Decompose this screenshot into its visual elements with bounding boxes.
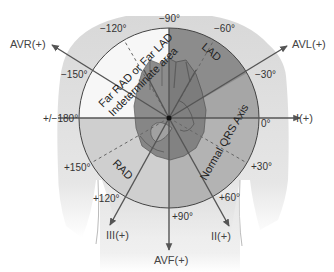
axis-diagram: Far RAD or Far LAD Indeterminate area LA… xyxy=(0,0,334,272)
deg-plusminus180: +/−180° xyxy=(43,113,78,124)
lead-avl: AVL(+) xyxy=(292,38,326,50)
lead-ii: II(+) xyxy=(211,230,231,242)
deg-minus30: −30° xyxy=(255,69,276,80)
center-dot xyxy=(167,116,172,121)
lead-avf: AVF(+) xyxy=(154,254,188,266)
deg-plus120: +120° xyxy=(93,193,120,204)
deg-minus150: −150° xyxy=(61,69,88,80)
deg-plus90: +90° xyxy=(172,211,193,222)
deg-zero: 0° xyxy=(261,118,271,129)
deg-plus150: +150° xyxy=(64,162,91,173)
deg-minus60: −60° xyxy=(214,23,235,34)
lead-i: I(+) xyxy=(296,112,313,124)
lead-iii: III(+) xyxy=(106,229,129,241)
deg-minus90: −90° xyxy=(159,13,180,24)
deg-plus60: +60° xyxy=(219,192,240,203)
deg-plus30: +30° xyxy=(251,161,272,172)
deg-minus120: −120° xyxy=(100,23,127,34)
lead-avr: AVR(+) xyxy=(10,38,46,50)
